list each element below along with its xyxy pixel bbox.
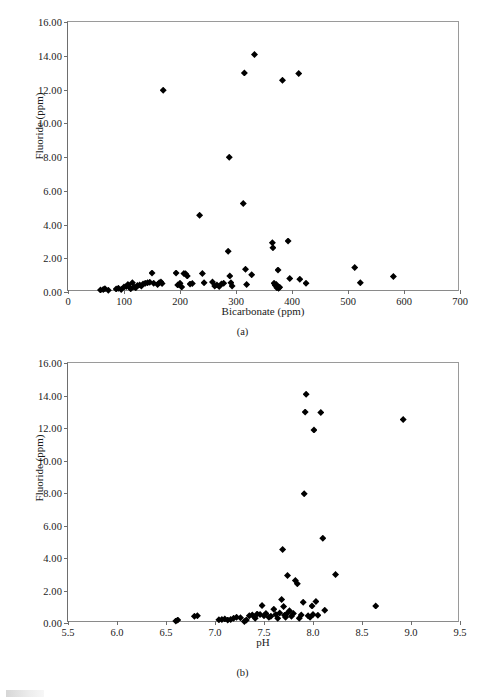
y-tick-label: 14.00	[38, 50, 62, 61]
x-tick-mark	[460, 290, 461, 294]
x-tick-mark	[411, 621, 412, 625]
data-point-marker	[321, 607, 328, 614]
x-axis-title-b: pH	[256, 636, 269, 648]
data-point-marker	[279, 546, 286, 553]
data-point-marker	[280, 603, 287, 610]
x-tick-label: 6.5	[159, 627, 172, 638]
data-point-marker	[241, 69, 248, 76]
data-point-marker	[278, 596, 285, 603]
data-point-marker	[248, 271, 255, 278]
data-point-marker	[149, 270, 156, 277]
y-tick-mark	[64, 123, 68, 124]
panel-b: 0.002.004.006.008.0010.0012.0014.0016.00…	[0, 350, 485, 699]
x-tick-label: 200	[172, 296, 188, 307]
y-tick-label: 2.00	[43, 585, 62, 596]
panel-caption-a: (a)	[0, 326, 485, 337]
axes-a: 0.002.004.006.008.0010.0012.0014.0016.00…	[67, 21, 459, 291]
plot-wrap-a: 0.002.004.006.008.0010.0012.0014.0016.00…	[0, 0, 485, 310]
data-point-marker	[226, 272, 233, 279]
y-tick-mark	[64, 258, 68, 259]
panel-a: 0.002.004.006.008.0010.0012.0014.0016.00…	[0, 0, 485, 350]
x-tick-mark	[460, 621, 461, 625]
x-tick-label: 500	[340, 296, 356, 307]
x-tick-label: 6.0	[110, 627, 123, 638]
data-point-marker	[390, 273, 397, 280]
x-tick-label: 7.0	[208, 627, 221, 638]
y-tick-label: 2.00	[43, 253, 62, 264]
x-tick-mark	[264, 621, 265, 625]
y-tick-label: 0.00	[43, 287, 62, 298]
data-point-marker	[286, 275, 293, 282]
data-point-marker	[303, 391, 310, 398]
y-tick-label: 14.00	[38, 390, 62, 401]
x-tick-label: 0	[65, 296, 70, 307]
data-point-marker	[259, 602, 266, 609]
data-point-marker	[199, 270, 206, 277]
axes-b: 0.002.004.006.008.0010.0012.0014.0016.00…	[67, 362, 459, 622]
y-axis-title-a: Fluoride (ppm)	[33, 93, 45, 160]
y-tick-mark	[64, 363, 68, 364]
data-point-marker	[285, 238, 292, 245]
figure-two-scatter-panels: 0.002.004.006.008.0010.0012.0014.0016.00…	[0, 0, 485, 699]
y-tick-label: 8.00	[43, 152, 62, 163]
y-tick-mark	[64, 56, 68, 57]
x-tick-mark	[404, 290, 405, 294]
x-axis-title-a: Bicarbonate (ppm)	[222, 305, 305, 317]
data-point-marker	[314, 612, 321, 619]
x-tick-label: 600	[396, 296, 412, 307]
x-tick-label: 5.5	[61, 627, 74, 638]
y-tick-label: 16.00	[38, 17, 62, 28]
data-point-marker	[296, 276, 303, 283]
data-point-marker	[226, 154, 233, 161]
y-tick-mark	[64, 90, 68, 91]
y-tick-mark	[64, 428, 68, 429]
data-point-marker	[400, 416, 407, 423]
y-tick-mark	[64, 396, 68, 397]
x-tick-mark	[124, 290, 125, 294]
data-point-marker	[303, 280, 310, 287]
data-point-marker	[269, 244, 276, 251]
y-tick-mark	[64, 526, 68, 527]
y-tick-mark	[64, 157, 68, 158]
x-tick-label: 700	[452, 296, 468, 307]
y-tick-label: 8.00	[43, 488, 62, 499]
data-point-marker	[357, 279, 364, 286]
x-tick-label: 8.5	[355, 627, 368, 638]
y-tick-label: 4.00	[43, 553, 62, 564]
data-point-marker	[279, 77, 286, 84]
plot-area-a	[68, 22, 458, 290]
y-tick-mark	[64, 591, 68, 592]
data-point-marker	[201, 279, 208, 286]
plot-wrap-b: 0.002.004.006.008.0010.0012.0014.0016.00…	[0, 350, 485, 660]
panel-caption-b: (b)	[0, 667, 485, 678]
data-point-marker	[300, 599, 307, 606]
data-point-marker	[302, 409, 309, 416]
y-axis-title-b: Fluoride (ppm)	[33, 435, 45, 502]
x-tick-mark	[362, 621, 363, 625]
x-tick-mark	[236, 290, 237, 294]
x-tick-label: 9.5	[453, 627, 466, 638]
data-point-marker	[196, 212, 203, 219]
data-point-marker	[160, 87, 167, 94]
data-point-marker	[332, 571, 339, 578]
data-point-marker	[242, 266, 249, 273]
x-tick-label: 9.0	[404, 627, 417, 638]
y-tick-mark	[64, 225, 68, 226]
data-point-marker	[225, 248, 232, 255]
x-tick-mark	[348, 290, 349, 294]
data-point-marker	[275, 267, 282, 274]
data-point-marker	[301, 490, 308, 497]
x-tick-mark	[292, 290, 293, 294]
x-tick-label: 8.0	[306, 627, 319, 638]
data-point-marker	[251, 51, 258, 58]
y-tick-mark	[64, 22, 68, 23]
x-tick-mark	[117, 621, 118, 625]
plot-area-b	[68, 363, 458, 621]
x-tick-mark	[68, 621, 69, 625]
y-tick-label: 6.00	[43, 185, 62, 196]
x-tick-mark	[180, 290, 181, 294]
data-point-marker	[173, 270, 180, 277]
data-point-marker	[310, 426, 317, 433]
y-tick-label: 12.00	[38, 423, 62, 434]
x-tick-mark	[68, 290, 69, 294]
